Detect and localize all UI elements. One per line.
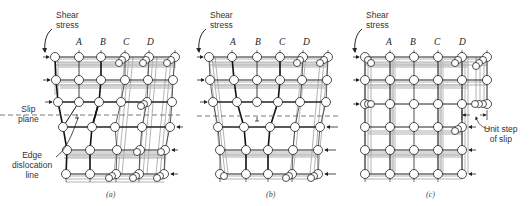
- dislocation-diagram: [0, 0, 532, 206]
- panel-a-lattice: [0, 29, 183, 182]
- dislocation-symbol-b: [255, 117, 259, 121]
- panel-c-lattice: [353, 29, 492, 182]
- shear-leader-c: [355, 29, 362, 52]
- shear-leader-a: [45, 29, 52, 52]
- panel-c-atoms: [361, 53, 492, 179]
- shear-leader-b: [199, 29, 206, 52]
- panel-a-back-planes: [55, 57, 175, 182]
- panel-b-lattice: [197, 29, 340, 182]
